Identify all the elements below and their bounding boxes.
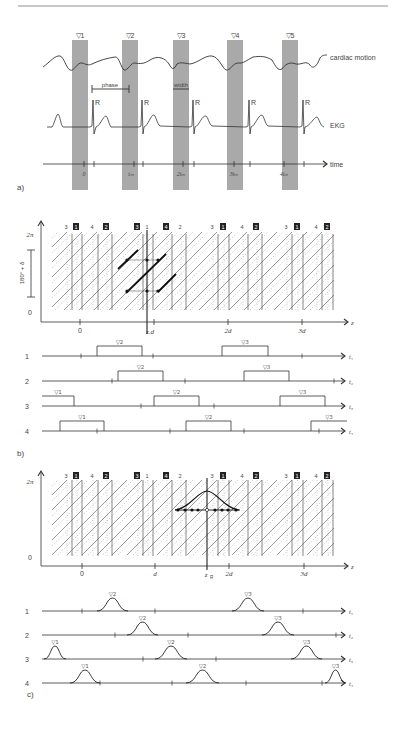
panel-b: 2π 0 180° + δ z 0 zᵣd 2d 3d 314231423142… — [17, 221, 354, 458]
svg-text:▽3: ▽3 — [263, 364, 271, 370]
row-axis-label: t₄ — [349, 680, 354, 687]
gate-bar — [72, 40, 88, 190]
svg-text:▽2: ▽2 — [109, 591, 117, 597]
panel-c: 2π 0 z 0 d 2d 3d z R 3142314231423142 1t… — [25, 471, 354, 699]
cardiac-motion-label: cardiac motion — [330, 54, 376, 61]
gate-bar — [122, 40, 138, 190]
trigger-label: ▽5 — [286, 32, 295, 39]
gate-bar — [173, 40, 189, 190]
trigger-label: ▽1 — [76, 32, 85, 39]
z-tick-label: 3d — [300, 570, 309, 578]
svg-text:▽3: ▽3 — [299, 389, 307, 395]
time-tick-label: 2tₘ — [177, 171, 186, 177]
z-axis-label: z — [350, 319, 354, 327]
svg-text:▽1: ▽1 — [51, 639, 59, 645]
row-axis-label: t₂ — [349, 632, 354, 639]
gate-bars — [72, 40, 298, 190]
svg-text:4: 4 — [164, 473, 167, 479]
gate-bar — [282, 40, 298, 190]
panel-label: c) — [27, 690, 34, 699]
z-tick-label: 0 — [80, 570, 84, 577]
svg-text:1: 1 — [221, 224, 224, 230]
row-axis-label: t₃ — [349, 656, 353, 663]
svg-text:2: 2 — [104, 224, 107, 230]
svg-text:2: 2 — [104, 473, 107, 479]
row-axis-label: t₂ — [349, 378, 354, 385]
phase-label: phase — [102, 82, 119, 88]
svg-text:▽3: ▽3 — [241, 339, 249, 345]
svg-text:▽2: ▽2 — [167, 639, 175, 645]
panel-a: ▽1 ▽2 ▽3 ▽4 ▽5 cardiac motion phase widt… — [17, 32, 376, 192]
svg-text:4: 4 — [90, 224, 93, 230]
svg-text:▽1: ▽1 — [54, 389, 62, 395]
svg-text:1: 1 — [221, 473, 224, 479]
row-axis-label: t₄ — [349, 428, 354, 435]
time-axis-label: time — [330, 161, 343, 168]
row-axis-label: t₃ — [349, 403, 353, 410]
svg-text:2: 2 — [325, 473, 328, 479]
time-tick-label: 0 — [83, 171, 86, 177]
row-label: 2 — [25, 378, 29, 385]
r-peak-label: R — [144, 99, 149, 106]
z-axis-label: z — [350, 563, 354, 571]
svg-text:3: 3 — [64, 473, 67, 479]
svg-text:3: 3 — [135, 473, 138, 479]
svg-text:4: 4 — [240, 473, 243, 479]
z-tick-label: zᵣd — [145, 328, 154, 336]
svg-text:1: 1 — [74, 224, 77, 230]
interpolation-points — [176, 508, 237, 511]
z-reconstruction-subscript: R — [210, 575, 214, 580]
trigger-label: ▽4 — [231, 32, 240, 39]
time-tick-label: 4tₘ — [280, 171, 289, 177]
svg-text:3: 3 — [135, 224, 138, 230]
svg-text:1: 1 — [145, 224, 148, 230]
trigger-label: ▽2 — [126, 32, 135, 39]
z-tick-label: 3d — [298, 327, 307, 335]
svg-text:▽2: ▽2 — [116, 339, 124, 345]
svg-text:1: 1 — [295, 473, 298, 479]
svg-text:3: 3 — [284, 473, 287, 479]
svg-text:4: 4 — [90, 473, 93, 479]
r-peak-label: R — [195, 99, 200, 106]
r-peak-label: R — [305, 99, 310, 106]
svg-text:1: 1 — [145, 473, 148, 479]
svg-text:▽2: ▽2 — [205, 414, 213, 420]
svg-text:2: 2 — [254, 224, 257, 230]
y-axis-bottom-label: 0 — [28, 309, 32, 316]
z-tick-label: 2d — [225, 327, 233, 335]
time-tick-label: tₘ — [128, 171, 134, 177]
svg-text:▽3: ▽3 — [244, 591, 252, 597]
z-tick-label: d — [153, 570, 157, 578]
row-label: 3 — [25, 656, 29, 663]
svg-text:4: 4 — [314, 224, 317, 230]
trigger-label: ▽3 — [177, 32, 186, 39]
y-axis-top-label: 2π — [26, 231, 34, 239]
svg-text:3: 3 — [210, 224, 213, 230]
time-tick-label: 3tₘ — [229, 171, 239, 177]
y-axis-bottom-label: 0 — [28, 554, 32, 561]
svg-text:▽3: ▽3 — [332, 663, 340, 669]
row-axis-label: t₁ — [349, 353, 353, 360]
svg-text:4: 4 — [240, 224, 243, 230]
row-label: 4 — [25, 428, 29, 435]
gate-bar — [227, 40, 243, 190]
panel-label: a) — [17, 183, 24, 192]
figure: ▽1 ▽2 ▽3 ▽4 ▽5 cardiac motion phase widt… — [0, 0, 397, 732]
svg-text:2: 2 — [254, 473, 257, 479]
svg-text:▽2: ▽2 — [137, 364, 145, 370]
svg-text:2: 2 — [178, 473, 181, 479]
z-reconstruction-label: z — [204, 571, 208, 579]
svg-text:▽3: ▽3 — [303, 639, 311, 645]
z-tick-label: 2d — [226, 570, 234, 578]
svg-text:3: 3 — [284, 224, 287, 230]
svg-text:▽3: ▽3 — [325, 414, 333, 420]
svg-text:3: 3 — [64, 224, 67, 230]
panel-label: b) — [17, 449, 24, 458]
row-label: 2 — [25, 632, 29, 639]
row-label: 3 — [25, 403, 29, 410]
svg-text:▽2: ▽2 — [173, 389, 181, 395]
r-peak-label: R — [95, 99, 100, 106]
svg-text:2: 2 — [178, 224, 181, 230]
width-label: width — [173, 82, 188, 88]
svg-text:2: 2 — [325, 224, 328, 230]
